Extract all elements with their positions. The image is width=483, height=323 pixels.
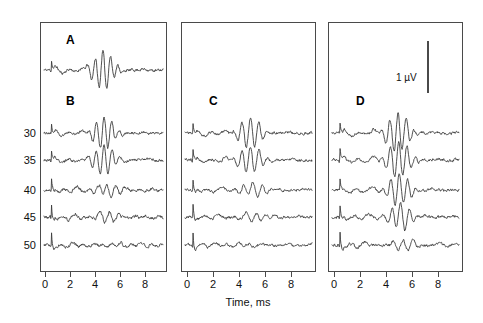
figure-canvas: A B C D 1 µV 30 35 40 45 50 0 2 4 6 8 0 … — [0, 0, 483, 323]
trace-b-50 — [44, 233, 163, 250]
trace-d-35 — [332, 141, 459, 176]
trace-b-40 — [44, 179, 163, 198]
trace-c-50 — [185, 233, 312, 251]
trace-c-40 — [185, 180, 312, 197]
trace-d-30 — [332, 113, 459, 151]
trace-d-45 — [332, 202, 459, 231]
trace-d-40 — [332, 174, 459, 206]
trace-c-30 — [185, 118, 312, 147]
trace-c-35 — [185, 148, 312, 172]
trace-a — [44, 50, 163, 88]
trace-b-30 — [44, 117, 163, 149]
trace-b-45 — [44, 205, 163, 223]
trace-layer — [0, 0, 483, 323]
trace-b-35 — [44, 145, 163, 174]
trace-c-45 — [185, 204, 312, 222]
trace-d-50 — [332, 232, 459, 251]
